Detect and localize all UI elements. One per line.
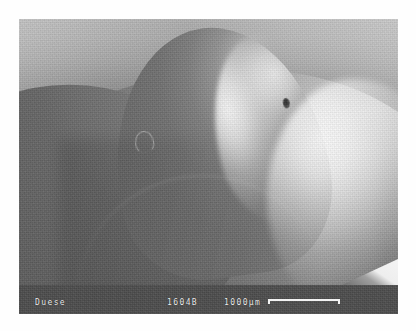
- scale-bar: [268, 299, 340, 305]
- scale-bar-tick-left: [268, 299, 270, 304]
- scale-value-label: 1000µm: [224, 298, 261, 307]
- specimen-id-label: 1604B: [167, 298, 198, 307]
- page-root: Duese 1604B 1000µm: [0, 0, 416, 331]
- scale-bar-line: [268, 299, 340, 301]
- instrument-info-bar: Duese 1604B 1000µm: [19, 285, 398, 314]
- scale-bar-tick-right: [338, 299, 340, 304]
- specimen: [19, 19, 398, 314]
- info-bar-texture: [19, 285, 398, 314]
- sem-micrograph: Duese 1604B 1000µm: [19, 19, 398, 314]
- sample-label: Duese: [35, 298, 66, 307]
